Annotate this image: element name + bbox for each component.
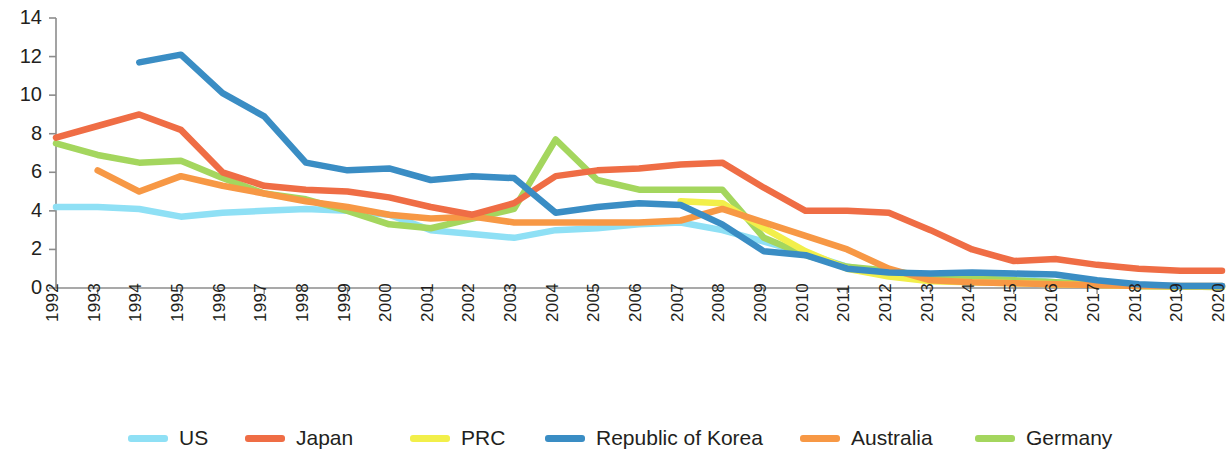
x-axis-tick-label: 2008 <box>709 283 729 322</box>
x-axis-tick-label: 1995 <box>168 283 188 322</box>
legend-swatch-icon <box>800 435 840 442</box>
y-axis-tick-label: 0 <box>8 277 42 297</box>
legend-item-australia[interactable]: Australia <box>800 426 933 450</box>
y-axis-tick-label: 10 <box>8 84 42 104</box>
legend-swatch-icon <box>975 435 1015 442</box>
legend-label: Australia <box>851 426 933 450</box>
legend-swatch-icon <box>545 435 585 442</box>
y-axis-tick-label: 4 <box>8 200 42 220</box>
legend-swatch-icon <box>410 435 450 442</box>
x-axis-tick-label: 2010 <box>793 283 813 322</box>
legend-swatch-icon <box>245 435 285 442</box>
x-axis-tick-label: 2005 <box>584 283 604 322</box>
x-axis-tick-label: 1992 <box>43 283 63 322</box>
x-axis-tick-label: 2006 <box>626 283 646 322</box>
chart-legend: USJapanPRCRepublic of KoreaAustraliaGerm… <box>0 418 1229 462</box>
x-axis-tick-label: 2015 <box>1001 283 1021 322</box>
x-axis-tick-label: 2016 <box>1042 283 1062 322</box>
x-axis-tick-label: 1996 <box>210 283 230 322</box>
x-axis-tick-label: 2019 <box>1167 283 1187 322</box>
y-axis-tick-label: 12 <box>8 46 42 66</box>
legend-label: US <box>179 426 208 450</box>
x-axis-tick-label: 1994 <box>126 283 146 322</box>
legend-label: Japan <box>296 426 353 450</box>
y-axis-ticks <box>49 18 56 288</box>
legend-swatch-icon <box>128 435 168 442</box>
y-axis-tick-label: 6 <box>8 161 42 181</box>
x-axis-tick-label: 2001 <box>418 283 438 322</box>
legend-item-germany[interactable]: Germany <box>975 426 1112 450</box>
legend-label: Germany <box>1026 426 1112 450</box>
legend-item-japan[interactable]: Japan <box>245 426 353 450</box>
x-axis-tick-label: 1993 <box>85 283 105 322</box>
y-axis-tick-label: 14 <box>8 7 42 27</box>
line-chart-svg <box>0 0 1229 300</box>
x-axis-tick-label: 2011 <box>834 284 854 322</box>
plot-area <box>0 0 1229 300</box>
x-axis-tick-label: 2004 <box>543 283 563 322</box>
y-axis-tick-label: 8 <box>8 123 42 143</box>
x-axis-tick-label: 2012 <box>876 283 896 322</box>
x-axis-tick-label: 2003 <box>501 283 521 322</box>
x-axis-tick-label: 2018 <box>1126 283 1146 322</box>
axis-group <box>56 18 1222 288</box>
x-axis-tick-label: 2002 <box>459 283 479 322</box>
x-axis-tick-label: 2014 <box>959 283 979 322</box>
legend-label: Republic of Korea <box>596 426 763 450</box>
legend-item-us[interactable]: US <box>128 426 208 450</box>
chart-root: 02468101214 1992199319941995199619971998… <box>0 0 1229 462</box>
y-axis-tick-label: 2 <box>8 238 42 258</box>
legend-label: PRC <box>461 426 505 450</box>
x-axis-tick-label: 1999 <box>335 283 355 322</box>
series-line-republic-of-korea <box>139 55 1222 286</box>
x-axis-tick-label: 2009 <box>751 283 771 322</box>
x-axis-tick-label: 2017 <box>1084 283 1104 322</box>
x-axis-tick-label: 2020 <box>1209 283 1229 322</box>
x-axis-tick-label: 2007 <box>668 283 688 322</box>
legend-item-republic-of-korea[interactable]: Republic of Korea <box>545 426 763 450</box>
x-axis-tick-label: 1997 <box>251 283 271 322</box>
x-axis-tick-label: 1998 <box>293 283 313 322</box>
legend-item-prc[interactable]: PRC <box>410 426 505 450</box>
x-axis-tick-label: 2013 <box>918 283 938 322</box>
x-axis-tick-label: 2000 <box>376 283 396 322</box>
